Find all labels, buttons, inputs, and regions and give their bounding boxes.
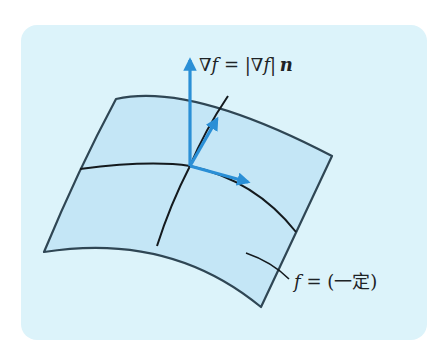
level-surface-label: f = (一定) <box>294 271 377 293</box>
level-rest: = (一定) <box>301 271 378 292</box>
gradient-bar: | <box>270 54 276 75</box>
gradient-eq: = |∇ <box>218 54 263 75</box>
nabla-symbol: ∇ <box>199 54 212 75</box>
gradient-label: ∇f = |∇f| n <box>199 54 293 76</box>
level-surface <box>44 96 332 307</box>
level-f: f <box>294 271 301 292</box>
normal-vector-n: n <box>280 54 293 75</box>
